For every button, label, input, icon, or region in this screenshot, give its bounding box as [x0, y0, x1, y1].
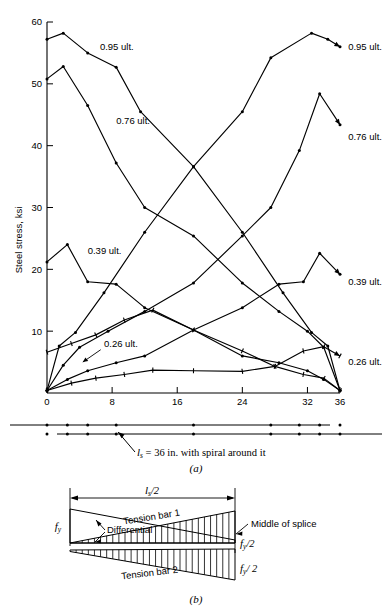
- middle-of-splice-label: Middle of splice: [251, 518, 316, 529]
- series-marker: [282, 291, 285, 294]
- series-marker: [277, 283, 280, 286]
- curve-annotation: 0.39 ult.: [348, 276, 382, 287]
- specimen-gauge-dot: [298, 424, 301, 427]
- curve-annotation: 0.76 ult.: [116, 115, 150, 126]
- tension-bar-2-label: Tension bar 2: [121, 564, 179, 582]
- series-marker: [143, 231, 146, 234]
- y-tick-label: 20: [31, 264, 42, 275]
- series-marker: [192, 165, 195, 168]
- curve-annotation: 0.26 ult.: [348, 356, 382, 367]
- series-line: [47, 310, 340, 390]
- series-marker: [115, 161, 118, 164]
- differential-label: Differential: [107, 524, 152, 535]
- series-marker: [241, 110, 244, 113]
- series-marker: [102, 291, 105, 294]
- specimen-note-text: = 36 in. with spiral around it: [146, 447, 266, 458]
- fy-label-left: fy: [55, 520, 62, 534]
- curve-annotation: 0.95 ult.: [100, 41, 134, 52]
- specimen-gauge-dot: [192, 424, 195, 427]
- panel-b-diagram: ls/2 fy Tension bar 1 Tension bar 2 Diff…: [55, 484, 317, 606]
- panel-b-letter: (b): [190, 593, 203, 606]
- specimen-gauge-dot: [192, 433, 195, 436]
- y-axis-title: Steel stress, ksi: [13, 207, 24, 274]
- y-tick-label: 60: [31, 16, 42, 27]
- series-marker: [66, 243, 69, 246]
- y-tick-label: 50: [31, 78, 42, 89]
- y-axis-tick-labels: 102030405060: [31, 16, 42, 336]
- series-end-arrowhead: [335, 119, 340, 125]
- series-marker: [143, 206, 146, 209]
- series-marker: [303, 372, 304, 377]
- fy-half-top-divisor: /2: [245, 538, 255, 549]
- series-marker: [46, 260, 49, 263]
- series-line: [47, 94, 340, 391]
- series-marker: [74, 331, 77, 334]
- series-marker: [115, 283, 118, 286]
- specimen-gauge-dot: [86, 433, 89, 436]
- x-axis-ticks: [47, 387, 340, 393]
- series-marker: [86, 369, 89, 372]
- x-tick-label: 24: [237, 396, 248, 407]
- dimension-arrowhead-right: [227, 495, 235, 500]
- series-marker: [143, 306, 146, 309]
- series-marker: [306, 330, 309, 333]
- specimen-schematic: ls = 36 in. with spiral around it (a): [10, 424, 382, 476]
- series-marker: [306, 369, 309, 372]
- series-marker: [241, 306, 244, 309]
- series-marker: [115, 66, 118, 69]
- series-marker: [310, 32, 313, 35]
- series-marker: [71, 381, 72, 386]
- series-marker: [277, 310, 280, 313]
- series-marker: [241, 354, 244, 357]
- specimen-gauge-dot: [318, 433, 321, 436]
- x-axis-tick-labels: 0816243236: [44, 396, 345, 407]
- series-marker: [241, 281, 244, 284]
- series-marker: [46, 77, 49, 80]
- curve-annotation: 0.26 ult.: [104, 338, 138, 349]
- curve-annotation: 0.39 ult.: [88, 245, 122, 256]
- specimen-note: ls = 36 in. with spiral around it: [137, 446, 266, 460]
- specimen-gauge-dot: [339, 424, 342, 427]
- specimen-gauge-dot: [66, 424, 69, 427]
- series-marker: [78, 346, 81, 349]
- panel-a-letter: (a): [190, 462, 203, 475]
- series-marker: [318, 252, 321, 255]
- panel-a-chart: 102030405060 0816243236 Steel stress, ks…: [13, 16, 382, 407]
- specimen-gauge-dot: [115, 424, 118, 427]
- specimen-gauge-dot: [66, 433, 69, 436]
- dimension-label: ls/2: [145, 484, 160, 498]
- series-marker: [86, 51, 89, 54]
- series-marker: [62, 65, 65, 68]
- specimen-gauge-dot: [269, 433, 272, 436]
- specimen-gauge-dot: [298, 433, 301, 436]
- middle-of-splice-arrowhead: [236, 532, 242, 536]
- fy-half-bottom-label: fy/ 2: [240, 562, 258, 576]
- series-marker: [46, 38, 49, 41]
- specimen-gauge-dot: [86, 424, 89, 427]
- series-marker: [86, 280, 89, 283]
- series-line: [47, 67, 340, 391]
- specimen-gauge-dot: [115, 433, 118, 436]
- series-marker: [318, 92, 321, 95]
- x-tick-label: 8: [109, 396, 114, 407]
- dimension-label-divisor: /2: [150, 485, 160, 496]
- fy-half-top-label: fy/2: [240, 537, 255, 551]
- specimen-note-arrowhead: [118, 432, 125, 438]
- curve-annotation: 0.95 ult.: [348, 41, 382, 52]
- series-marker: [66, 378, 69, 381]
- specimen-gauge-dot: [339, 433, 342, 436]
- series-marker: [269, 206, 272, 209]
- series-marker: [192, 281, 195, 284]
- specimen-gauge-dot: [269, 424, 272, 427]
- series-marker: [115, 361, 118, 364]
- series-marker: [303, 348, 304, 353]
- dimension-arrowhead-left: [70, 495, 78, 500]
- x-tick-label: 0: [44, 396, 49, 407]
- figure-root: 102030405060 0816243236 Steel stress, ks…: [0, 0, 392, 615]
- series-marker: [143, 354, 146, 357]
- series-marker: [242, 369, 243, 374]
- fy-subscript-left: y: [57, 525, 62, 534]
- specimen-gauge-dot: [46, 433, 49, 436]
- x-tick-label: 32: [302, 396, 313, 407]
- series-marker: [139, 110, 142, 113]
